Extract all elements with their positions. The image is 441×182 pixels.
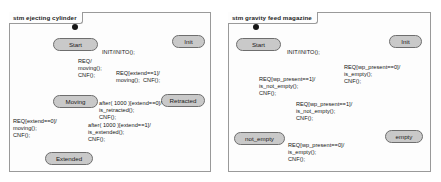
state-start-left[interactable]: Start [53, 38, 98, 51]
state-moving-left[interactable]: Moving [53, 95, 98, 108]
edge-label-init-transition-right: INIT/INITO(); [287, 49, 320, 56]
edge-label-init-transition-left: INIT/INITO(); [102, 49, 135, 56]
edge-label-retracted-to-moving-left: REQ[extend==1]/ moving(); CNF(); [116, 70, 160, 84]
state-empty-right[interactable]: empty [385, 130, 423, 143]
edge-label-start-to-not-empty-right: REQ[wp_present==1]/ is_not_empty(); CNF(… [259, 76, 315, 97]
state-init-right[interactable]: Init [389, 35, 422, 48]
state-label: not_empty [245, 135, 274, 142]
edge-label-moving-to-retracted-left: after( 1000 )[extend==0]/ is_retracted()… [99, 100, 162, 121]
state-start-right[interactable]: Start [236, 38, 281, 51]
state-init-left[interactable]: Init [172, 35, 205, 48]
state-label: Init [401, 38, 409, 45]
edge-label-not-empty-to-empty-right: REQ[wp_present==0]/ is_empty(); CNF(); [288, 142, 344, 163]
initial-pseudostate-right [253, 24, 259, 30]
diagram-title-gravity-feed-magazine: stm gravity feed magazine [228, 12, 318, 24]
diagram-canvas: stm ejecting cylinder Start Init Moving … [0, 0, 441, 182]
diagram-title-ejecting-cylinder: stm ejecting cylinder [9, 12, 83, 24]
state-label: Start [252, 41, 265, 48]
state-label: Extended [56, 155, 82, 162]
state-extended-left[interactable]: Extended [45, 152, 93, 165]
edge-label-start-to-empty-right: REQ[wp_present==0]/ is_empty(); CNF(); [344, 64, 400, 85]
state-label: Start [69, 41, 82, 48]
state-label: Init [184, 38, 192, 45]
edge-label-empty-to-not-empty-right: REQ[wp_present==1]/ is_not_empty(); CNF(… [296, 101, 352, 122]
state-not-empty-right[interactable]: not_empty [234, 132, 285, 145]
edge-label-moving-to-extended-left: after( 1000 )[extend==1]/ is_extended();… [88, 122, 151, 143]
initial-pseudostate-left [72, 24, 78, 30]
state-label: Retracted [170, 97, 197, 104]
state-retracted-left[interactable]: Retracted [161, 94, 205, 107]
edge-label-extended-to-moving-left: REQ[extend==0]/ moving(); CNF(); [13, 118, 57, 139]
edge-label-start-to-moving-left: REQ/ moving(); CNF(); [78, 58, 102, 79]
state-label: Moving [66, 98, 86, 105]
state-label: empty [396, 133, 413, 140]
